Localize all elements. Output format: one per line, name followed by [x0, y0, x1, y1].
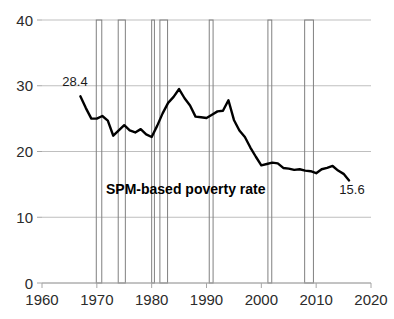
y-tick-label: 40 — [16, 12, 33, 29]
poverty-rate-line — [80, 89, 349, 180]
x-tick-label: 2020 — [354, 291, 387, 308]
y-tick-label: 0 — [25, 275, 33, 292]
y-axis-tick-labels: 010203040 — [16, 12, 33, 292]
poverty-rate-chart: 010203040 1960197019801990200020102020 2… — [0, 0, 394, 319]
start-value-label: 28.4 — [62, 74, 87, 89]
end-value-label: 15.6 — [339, 182, 364, 197]
chart-canvas: 010203040 1960197019801990200020102020 2… — [0, 0, 394, 319]
grid-lines — [42, 20, 371, 283]
x-tick-label: 2010 — [299, 291, 332, 308]
series-inline-label: SPM-based poverty rate — [106, 181, 266, 197]
y-tick-label: 10 — [16, 209, 33, 226]
y-tick-label: 30 — [16, 77, 33, 94]
x-axis-tick-labels: 1960197019801990200020102020 — [25, 291, 387, 308]
x-tick-label: 1990 — [190, 291, 223, 308]
y-tick-marks — [37, 20, 42, 283]
x-tick-label: 1970 — [80, 291, 113, 308]
x-tick-marks — [42, 283, 371, 288]
x-tick-label: 1960 — [25, 291, 58, 308]
x-tick-label: 1980 — [135, 291, 168, 308]
x-tick-label: 2000 — [245, 291, 278, 308]
y-tick-label: 20 — [16, 143, 33, 160]
